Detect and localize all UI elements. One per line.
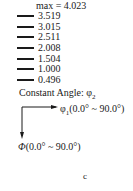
phi-axis-label: Φ(0.0° ~ 90.0°) — [18, 141, 81, 152]
right-arrow-icon — [51, 105, 58, 109]
axis-arrows — [0, 0, 133, 191]
figure-caption: c — [83, 171, 87, 181]
phi1-axis-label: φ1(0.0° ~ 90.0°) — [60, 103, 124, 117]
down-arrow-icon — [20, 132, 24, 139]
